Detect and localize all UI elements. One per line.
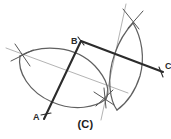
figure-caption: (C)	[0, 118, 171, 130]
cross-top-right-stroke-b-icon	[128, 11, 143, 28]
intersection-cross-marks	[11, 9, 143, 108]
point-label-c: C	[165, 62, 171, 71]
compass-arcs	[20, 23, 143, 110]
left-large-arc-upper-icon	[20, 48, 108, 99]
geometry-figure: A B C (C)	[0, 0, 171, 139]
right-lens-arc-right-icon	[117, 23, 142, 110]
ray-b-to-c-icon	[81, 41, 163, 72]
point-label-b: B	[71, 37, 78, 46]
cross-left-stroke-b-icon	[11, 50, 33, 61]
